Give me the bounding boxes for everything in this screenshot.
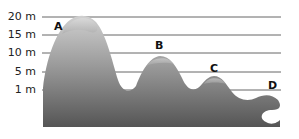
peak-label-c: C xyxy=(210,63,218,75)
peak-label-a: A xyxy=(54,21,63,33)
axis-label-20m: 20 m xyxy=(2,11,36,23)
terrain-diagram xyxy=(0,0,299,139)
axis-label-10m: 10 m xyxy=(2,47,36,59)
axis-label-15m: 15 m xyxy=(2,29,36,41)
peak-label-d: D xyxy=(268,80,277,92)
axis-label-5m: 5 m xyxy=(2,66,36,78)
axis-label-1m: 1 m xyxy=(2,84,36,96)
peak-label-b: B xyxy=(155,40,163,52)
terrain-shape xyxy=(43,16,280,127)
